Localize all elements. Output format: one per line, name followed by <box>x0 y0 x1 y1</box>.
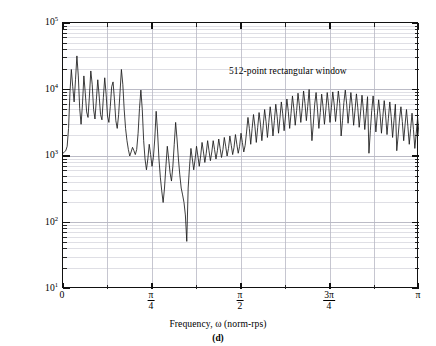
x-tick-label-4: π <box>416 290 421 300</box>
figure-subcaption: (d) <box>0 333 436 343</box>
y-tick-label-5: 105 <box>4 15 58 27</box>
x-tick-label-2: π2 <box>237 290 244 312</box>
x-tick-label-1: π4 <box>148 290 155 312</box>
y-tick-label-4: 104 <box>4 82 58 94</box>
spectrum-curve <box>63 23 419 289</box>
x-axis-label: Frequency, ω (norm-rps) <box>0 318 436 329</box>
x-axis-label-text: Frequency, ω (norm-rps) <box>169 318 266 329</box>
plot-area <box>62 22 418 288</box>
subcaption-text: (d) <box>212 333 223 343</box>
x-tick-label-0: 0 <box>60 290 65 300</box>
y-tick-label-3: 103 <box>4 148 58 160</box>
x-tick-label-3: 3π4 <box>323 290 335 312</box>
plot-annotation: 512-point rectangular window <box>229 66 347 76</box>
figure-root: Short-term magnitude spectrum, |S(ω;2012… <box>0 0 436 346</box>
annotation-text: 512-point rectangular window <box>229 66 347 76</box>
y-tick-label-2: 102 <box>4 215 58 227</box>
